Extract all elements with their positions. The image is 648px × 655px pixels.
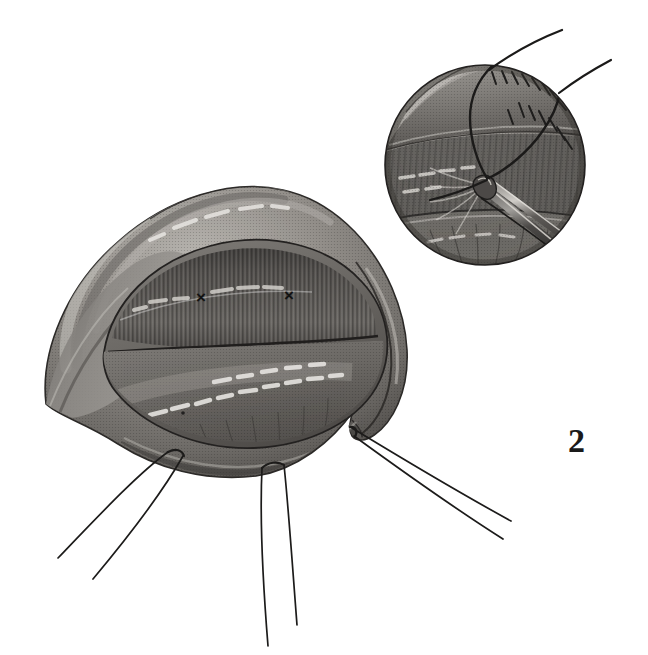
suture-site-mark-right: × [284, 286, 294, 305]
figure-number: 2 [568, 424, 585, 458]
suture-site-mark-left: × [196, 288, 206, 307]
surgical-figure-canvas: × × [0, 0, 648, 655]
tissue-fleck [181, 411, 185, 415]
illustration-plate: × × [0, 0, 648, 655]
